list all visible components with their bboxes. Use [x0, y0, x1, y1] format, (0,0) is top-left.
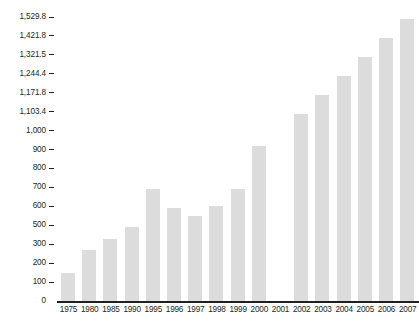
x-axis-tick-label: 1980: [79, 305, 100, 314]
bar-slot: [122, 0, 143, 303]
bar[interactable]: [146, 189, 160, 303]
bar[interactable]: [209, 206, 223, 303]
y-axis-tick-mark: [49, 111, 54, 112]
x-axis-tick-label: 2001: [270, 305, 291, 314]
bar-slot: [355, 0, 376, 303]
bar-slot: [270, 0, 291, 303]
bar-slot: [228, 0, 249, 303]
x-axis-tick-label: 1996: [164, 305, 185, 314]
y-axis-tick: 1,103.4: [19, 106, 56, 118]
x-axis-baseline: [57, 301, 419, 303]
plot-area: [58, 0, 419, 303]
x-axis-tick-label: 1997: [185, 305, 206, 314]
y-axis-tick: 1,171.8: [19, 87, 56, 99]
y-axis-tick-label: 1,529.8: [19, 11, 46, 23]
bar[interactable]: [379, 38, 393, 303]
y-axis-tick-mark: [49, 130, 54, 131]
y-axis-tick: 1,529.8: [19, 11, 56, 23]
y-axis-tick: 700: [33, 181, 56, 193]
x-axis-tick-label: 2007: [397, 305, 418, 314]
bar-slot: [100, 0, 121, 303]
y-axis: 1,529.81,421.81,321.51,244.41,171.81,103…: [0, 0, 56, 328]
y-axis-tick-mark: [49, 206, 54, 207]
y-axis-tick-label: 1,244.4: [19, 68, 46, 80]
bar[interactable]: [231, 189, 245, 303]
bar[interactable]: [167, 208, 181, 303]
x-axis-tick-label: 2004: [334, 305, 355, 314]
x-axis-tick-label: 1999: [228, 305, 249, 314]
y-axis-tick-label: 600: [33, 200, 46, 212]
x-axis-tick-label: 2002: [291, 305, 312, 314]
bar[interactable]: [125, 227, 139, 303]
bar[interactable]: [82, 250, 96, 303]
bar-slot: [334, 0, 355, 303]
bar-slot: [79, 0, 100, 303]
bar-slot: [206, 0, 227, 303]
y-axis-tick: 1,321.5: [19, 49, 56, 61]
y-axis-tick-label: 500: [33, 219, 46, 231]
y-axis-tick: 100: [33, 276, 56, 288]
y-axis-tick: 0: [42, 295, 56, 307]
y-axis-tick-mark: [49, 225, 54, 226]
x-axis-tick-label: 1990: [122, 305, 143, 314]
bar-slot: [143, 0, 164, 303]
y-axis-tick-mark: [49, 92, 54, 93]
y-axis-tick-label: 800: [33, 162, 46, 174]
y-axis-tick-mark: [49, 244, 54, 245]
bar[interactable]: [252, 146, 266, 303]
y-axis-tick: 800: [33, 162, 56, 174]
y-axis-tick-mark: [49, 35, 54, 36]
bar-slot: [291, 0, 312, 303]
y-axis-tick-label: 1,421.8: [19, 30, 46, 42]
y-axis-tick-label: 100: [33, 276, 46, 288]
bar-slot: [397, 0, 418, 303]
y-axis-tick-mark: [49, 17, 54, 18]
bar[interactable]: [315, 95, 329, 303]
y-axis-tick: 200: [33, 257, 56, 269]
y-axis-tick-mark: [49, 282, 54, 283]
bar[interactable]: [103, 239, 117, 303]
bar[interactable]: [358, 57, 372, 303]
bar-slot: [185, 0, 206, 303]
y-axis-tick: 1,000: [26, 125, 56, 137]
bar[interactable]: [188, 216, 202, 303]
x-axis-tick-label: 2006: [376, 305, 397, 314]
y-axis-tick-label: 300: [33, 238, 46, 250]
y-axis-tick: 300: [33, 238, 56, 250]
x-axis-tick-label: 2005: [355, 305, 376, 314]
x-axis: 1975198019851990199519961997199819992000…: [58, 305, 419, 325]
y-axis-tick: 500: [33, 219, 56, 231]
x-axis-tick-label: 1985: [100, 305, 121, 314]
y-axis-tick-label: 1,000: [26, 125, 46, 137]
x-axis-tick-label: 1998: [206, 305, 227, 314]
y-axis-tick-mark: [49, 73, 54, 74]
y-axis-tick: 600: [33, 200, 56, 212]
y-axis-tick: 900: [33, 144, 56, 156]
y-axis-tick-mark: [49, 149, 54, 150]
y-axis-tick-mark: [49, 54, 54, 55]
bar[interactable]: [400, 19, 414, 303]
bar-slot: [164, 0, 185, 303]
bar-slot: [312, 0, 333, 303]
y-axis-tick-label: 0: [42, 295, 46, 307]
y-axis-tick-label: 900: [33, 144, 46, 156]
y-axis-tick-label: 1,171.8: [19, 87, 46, 99]
bar-chart: 1,529.81,421.81,321.51,244.41,171.81,103…: [0, 0, 419, 328]
bar[interactable]: [294, 114, 308, 303]
x-axis-tick-label: 2000: [249, 305, 270, 314]
bar[interactable]: [337, 76, 351, 303]
y-axis-tick-mark: [49, 168, 54, 169]
y-axis-tick-label: 1,103.4: [19, 106, 46, 118]
bar-slot: [376, 0, 397, 303]
x-axis-tick-label: 1975: [58, 305, 79, 314]
bar-slot: [249, 0, 270, 303]
x-axis-tick-label: 1995: [143, 305, 164, 314]
y-axis-tick-mark: [49, 187, 54, 188]
y-axis-tick-label: 1,321.5: [19, 49, 46, 61]
y-axis-tick-mark: [49, 301, 54, 302]
y-axis-tick: 1,244.4: [19, 68, 56, 80]
x-axis-tick-label: 2003: [312, 305, 333, 314]
bar[interactable]: [61, 273, 75, 303]
y-axis-tick-mark: [49, 263, 54, 264]
y-axis-tick-label: 700: [33, 181, 46, 193]
